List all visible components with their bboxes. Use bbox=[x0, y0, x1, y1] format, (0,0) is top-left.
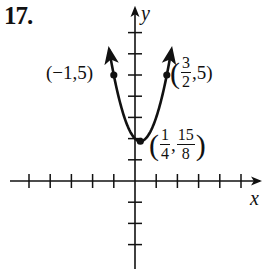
coordinate-plane bbox=[0, 0, 264, 269]
plotted-point bbox=[110, 71, 117, 78]
point-label-left: (−1,5) bbox=[46, 63, 93, 82]
x-axis-label: x bbox=[250, 188, 259, 208]
fraction-one-quarter: 14 bbox=[160, 127, 170, 162]
point-label-vertex: (14,158) bbox=[149, 127, 206, 162]
graph-figure: 17. y x (−1,5) (32,5) (14,158) bbox=[0, 0, 264, 269]
fraction-fifteen-eighths: 158 bbox=[177, 127, 195, 162]
fraction-three-halves: 32 bbox=[181, 55, 191, 90]
point-label-right: (32,5) bbox=[170, 55, 213, 90]
problem-number: 17. bbox=[4, 2, 32, 30]
y-axis-label: y bbox=[141, 3, 150, 23]
vertex-point bbox=[137, 138, 144, 145]
